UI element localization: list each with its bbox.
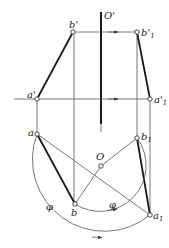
label-a1: a1 [153, 210, 163, 223]
label-a-prime: a' [27, 89, 36, 100]
label-o: O [96, 151, 104, 162]
line-o-b1 [101, 138, 137, 166]
point-b1-prime [135, 30, 139, 34]
line-b-o [75, 166, 101, 204]
label-phi-outer: φ [46, 201, 53, 212]
segment-a1-prime-b1-prime [137, 32, 150, 99]
label-o-prime: O' [104, 10, 115, 21]
diagram-canvas: O' b' b'1 a' a'1 a b1 O b a1 φ φ [0, 0, 169, 248]
point-a1-prime [148, 97, 152, 101]
label-a: a [28, 127, 34, 138]
line-a-o-a1 [37, 134, 150, 215]
point-o [99, 164, 103, 168]
point-b-prime [71, 30, 75, 34]
point-a1 [148, 213, 152, 217]
segment-a-prime-b-prime [37, 32, 73, 99]
label-b-prime: b' [69, 19, 78, 30]
arc-a-to-a1 [32, 134, 150, 231]
rotation-diagram: O' b' b'1 a' a'1 a b1 O b a1 φ φ [0, 0, 169, 248]
label-b: b [71, 207, 77, 218]
label-phi-inner: φ [109, 199, 116, 210]
arc-a-arrow [92, 237, 102, 238]
point-b [73, 202, 77, 206]
segment-ab [37, 134, 75, 204]
label-b1-prime: b'1 [141, 27, 155, 40]
label-a1-prime: a'1 [154, 94, 167, 107]
point-b1 [135, 136, 139, 140]
point-a [35, 132, 39, 136]
